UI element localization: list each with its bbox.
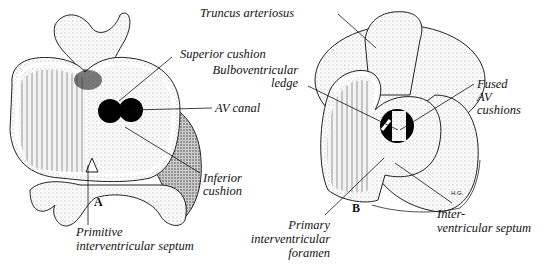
label-superior-cushion: Superior cushion — [180, 47, 266, 61]
label-primitive-septum-1: Primitive — [76, 225, 123, 239]
panel-a-drawing — [10, 13, 212, 226]
label-fused-1: Fused — [477, 77, 508, 91]
label-inferior-cushion-2: cushion — [203, 184, 242, 198]
label-fused-3: cushions — [477, 103, 521, 117]
label-primary-foramen-2: interventricular — [240, 232, 330, 246]
label-primary-foramen-3: foramen — [240, 246, 330, 260]
label-iv-septum-2: ventricular septum — [437, 221, 531, 235]
panel-a-label: A — [94, 195, 103, 210]
panel-b-label: B — [352, 201, 360, 216]
anatomy-figure: A Superior cushion AV canal Inferior cus… — [0, 0, 547, 265]
label-iv-septum-1: Inter- — [437, 207, 465, 221]
label-av-canal: AV canal — [215, 101, 260, 115]
label-inferior-cushion-1: Inferior — [203, 171, 242, 185]
label-fused-2: AV — [477, 90, 492, 104]
panel-b-drawing — [308, 12, 485, 215]
label-truncus-arteriosus: Truncus arteriosus — [200, 6, 294, 20]
label-primary-foramen-1: Primary — [240, 218, 330, 232]
label-bulboventricular-2: ledge — [190, 76, 298, 90]
label-primitive-septum-2: interventricular septum — [76, 239, 194, 253]
label-bulboventricular-1: Bulboventricular — [190, 63, 298, 77]
artist-signature: H.G. — [451, 190, 463, 196]
